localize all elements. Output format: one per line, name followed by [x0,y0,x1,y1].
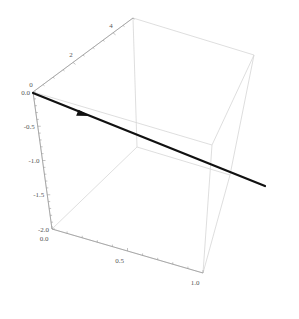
box-edge [212,55,254,145]
y-tick-label: 4 [109,22,113,30]
z-tick-label: -0.5 [24,123,36,131]
y-tick [53,77,55,78]
tick-marks [33,18,203,273]
y-tick [113,33,116,35]
arrowhead [76,110,90,116]
x-tick-label: 0.0 [40,235,49,243]
arrow-shaft [33,93,265,186]
z-tick-label: 0.0 [21,89,30,97]
series [33,93,265,186]
y-tick-label: 2 [69,51,73,59]
x-tick-label: 0.5 [115,257,124,265]
x-tick-label: 1.0 [191,279,200,287]
z-tick-label: -1.5 [33,191,45,199]
y-tick [73,62,76,64]
box-edge [203,175,230,273]
box-edge [52,147,137,229]
z-tick-label: -2.0 [38,226,50,234]
box-edge [133,18,137,147]
y-tick [83,55,85,56]
axes [33,18,203,273]
box-edge [137,147,230,175]
bounding-box [33,18,254,273]
z-tick-label: -1.0 [28,157,40,165]
y-tick [123,25,125,26]
y-tick [93,48,95,49]
plot-3d: 0.00.51.00240.0-0.5-1.0-1.5-2.0 [0,0,299,319]
y-tick [103,40,105,41]
y-tick [43,85,45,86]
box-edge [33,92,212,145]
y-tick [63,70,65,71]
box-edge [133,18,254,55]
tick-labels: 0.00.51.00240.0-0.5-1.0-1.5-2.0 [21,22,200,287]
box-edge [230,55,254,175]
